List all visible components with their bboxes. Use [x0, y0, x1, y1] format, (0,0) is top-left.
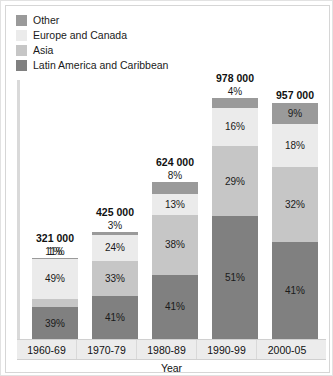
bar-segment	[212, 98, 258, 108]
legend-item: Asia	[16, 43, 196, 58]
bar-segment-label: 16%	[225, 121, 245, 132]
legend-item: Latin America and Caribbean	[16, 58, 196, 73]
plot-area: 321 0001%11%49%39%425 0003%24%33%41%624 …	[17, 80, 326, 339]
bar-total-label: 978 000	[205, 72, 265, 84]
bar-segment	[32, 299, 78, 308]
bar-column: 425 0003%24%33%41%	[85, 80, 145, 339]
bar-segment: 18%	[272, 124, 318, 166]
bar-segment-label: 18%	[285, 140, 305, 151]
bar-segment-label: 39%	[45, 318, 65, 329]
legend-swatch-icon	[16, 30, 27, 41]
bar-segment-label: 29%	[225, 176, 245, 187]
bar-segment: 16%	[212, 108, 258, 147]
legend-item-label: Asia	[33, 45, 53, 56]
bar-column: 978 0004%16%29%51%	[205, 80, 265, 339]
legend-item-label: Latin America and Caribbean	[33, 60, 168, 71]
bar-segment: 29%	[212, 146, 258, 216]
bar-segment: 24%	[92, 235, 138, 260]
bar-segment-label: 33%	[105, 273, 125, 284]
legend-swatch-icon	[16, 45, 27, 56]
bar-segment: 9%	[272, 103, 318, 124]
bar-total-label: 321 000	[25, 232, 85, 244]
bar-segment-label: 49%	[45, 273, 65, 284]
bar-segment: 38%	[152, 215, 198, 275]
stacked-bar: 16%29%51%	[212, 98, 258, 339]
bar-segment: 32%	[272, 167, 318, 243]
stacked-bar: 24%33%41%	[92, 232, 138, 339]
bar-segment: 41%	[92, 296, 138, 339]
bar-segment-label: 41%	[105, 312, 125, 323]
x-axis-tick-labels: 1960-691970-791980-891990-992000-05	[17, 339, 326, 360]
bar-column: 624 0008%13%38%41%	[145, 80, 205, 339]
bar-segment: 13%	[152, 194, 198, 214]
bar-total-label: 957 000	[265, 89, 325, 101]
bar-segment: 51%	[212, 216, 258, 339]
stacked-bar: 9%18%32%41%	[272, 103, 318, 339]
x-axis-tick-label: 1990-99	[197, 340, 257, 359]
bar-segment-label: 3%	[85, 220, 145, 231]
chart-figure: OtherEurope and CanadaAsiaLatin America …	[0, 0, 333, 376]
stacked-bar: 13%38%41%	[152, 182, 198, 339]
bar-total-label: 624 000	[145, 156, 205, 168]
legend-item-label: Europe and Canada	[33, 30, 127, 41]
bar-segment-label: 24%	[105, 242, 125, 253]
bar-segment-label: 13%	[165, 199, 185, 210]
bar-segment-label: 11%	[25, 246, 85, 257]
x-axis-tick-label: 1960-69	[17, 340, 77, 359]
y-axis-line	[17, 80, 20, 339]
bar-segment-label: 41%	[285, 285, 305, 296]
x-axis-tick-label: 1970-79	[77, 340, 137, 359]
bar-segment: 33%	[92, 261, 138, 296]
bar-column: 957 0009%18%32%41%	[265, 80, 325, 339]
bar-segment-label: 32%	[285, 199, 305, 210]
legend-item-label: Other	[33, 15, 59, 26]
bar-segment-label: 38%	[165, 239, 185, 250]
legend-item: Other	[16, 13, 196, 28]
chart-frame: OtherEurope and CanadaAsiaLatin America …	[5, 5, 330, 373]
legend-swatch-icon	[16, 15, 27, 26]
bar-group: 321 0001%11%49%39%425 0003%24%33%41%624 …	[25, 80, 326, 339]
bar-segment: 41%	[272, 242, 318, 339]
bar-segment-label: 8%	[145, 170, 205, 181]
bar-segment-label: 9%	[288, 108, 302, 119]
bar-column: 321 0001%11%49%39%	[25, 80, 85, 339]
x-axis-tick-label: 2000-05	[257, 340, 317, 359]
x-axis-title: Year	[17, 362, 326, 374]
bar-segment-label: 41%	[165, 301, 185, 312]
bar-segment: 41%	[152, 275, 198, 339]
bar-total-label: 425 000	[85, 206, 145, 218]
bar-segment-label: 4%	[205, 86, 265, 97]
x-axis-tick-label: 1980-89	[137, 340, 197, 359]
legend-item: Europe and Canada	[16, 28, 196, 43]
bar-segment	[152, 182, 198, 195]
stacked-bar: 49%39%	[32, 258, 78, 339]
bar-segment: 49%	[32, 259, 78, 299]
bar-segment: 39%	[32, 307, 78, 338]
legend-swatch-icon	[16, 60, 27, 71]
chart-legend: OtherEurope and CanadaAsiaLatin America …	[16, 13, 196, 73]
bar-segment-label: 51%	[225, 272, 245, 283]
